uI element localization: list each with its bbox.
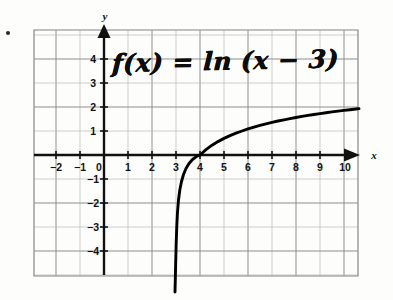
y-tick-label-2: 2 — [90, 101, 96, 113]
ink-speck — [6, 31, 10, 35]
x-tick-label-3: 3 — [173, 161, 179, 173]
scanned-page: −2 −1 0 1 2 3 4 5 6 7 8 9 10 4 3 2 1 −1 … — [0, 0, 393, 300]
page-background — [0, 0, 393, 300]
x-tick-label-4: 4 — [197, 161, 203, 173]
y-tick-label-4: 4 — [90, 53, 96, 65]
x-tick-label-6: 6 — [245, 161, 251, 173]
x-tick-label-2: 2 — [149, 161, 155, 173]
graph-svg: −2 −1 0 1 2 3 4 5 6 7 8 9 10 4 3 2 1 −1 … — [0, 0, 393, 300]
x-tick-label-10: 10 — [339, 161, 351, 173]
x-tick-label-minus1: −1 — [74, 161, 86, 173]
x-tick-label-7: 7 — [269, 161, 275, 173]
graph-figure: −2 −1 0 1 2 3 4 5 6 7 8 9 10 4 3 2 1 −1 … — [0, 0, 393, 300]
y-axis-label: y — [101, 10, 108, 22]
y-tick-label-3: 3 — [90, 77, 96, 89]
x-tick-label-5: 5 — [221, 161, 227, 173]
y-tick-label-minus3: −3 — [87, 221, 99, 233]
x-tick-label-9: 9 — [317, 161, 323, 173]
x-tick-label-8: 8 — [293, 161, 299, 173]
y-tick-label-minus4: −4 — [87, 245, 99, 257]
y-tick-label-minus2: −2 — [87, 197, 99, 209]
x-tick-label-0: 0 — [96, 161, 102, 173]
x-tick-label-1: 1 — [125, 161, 131, 173]
x-tick-label-minus2: −2 — [50, 161, 62, 173]
y-tick-label-1: 1 — [90, 125, 96, 137]
x-axis-label: x — [370, 149, 377, 161]
y-tick-label-minus1: −1 — [87, 173, 99, 185]
